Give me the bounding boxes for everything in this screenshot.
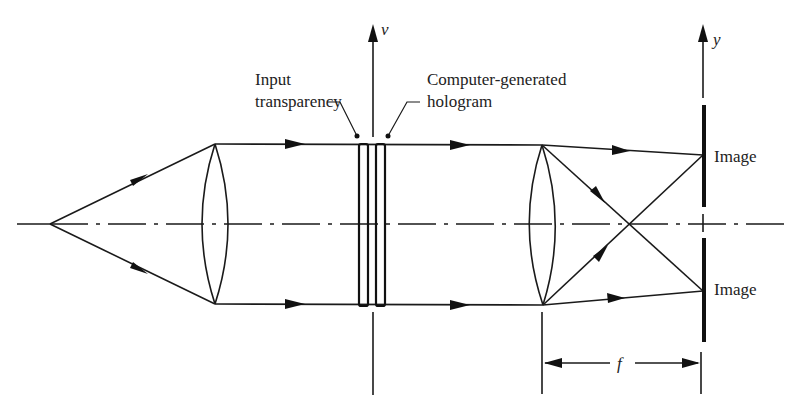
image-label-bottom: Image <box>714 280 756 299</box>
input-transparency-plate <box>359 144 368 306</box>
v-axis-label: v <box>381 20 389 39</box>
output-rays <box>542 145 703 305</box>
transform-lens <box>529 145 555 305</box>
arrow-icon <box>450 140 470 150</box>
arrow-right-icon <box>682 358 700 368</box>
arrow-up-icon <box>368 24 378 42</box>
arrow-icon <box>590 186 605 203</box>
hologram-plate <box>376 144 385 306</box>
y-axis <box>698 24 708 342</box>
optical-diagram: v Input transparency Computer-generated … <box>0 0 797 413</box>
hologram-label-line1: Computer-generated <box>427 70 567 89</box>
arrow-icon <box>593 245 608 262</box>
arrow-up-icon <box>698 24 708 42</box>
arrow-icon <box>607 293 625 303</box>
arrow-icon <box>130 262 148 274</box>
arrow-icon <box>285 299 305 309</box>
hologram-leader <box>386 102 421 139</box>
hologram-label-line2: hologram <box>427 92 492 111</box>
focal-length-label: f <box>617 354 624 373</box>
focal-length-dimension <box>542 312 701 394</box>
y-axis-label: y <box>711 30 721 49</box>
arrow-icon <box>285 139 305 149</box>
arrow-icon <box>450 300 470 310</box>
arrow-icon <box>130 174 148 186</box>
input-transparency-label-line1: Input <box>255 70 291 89</box>
arrow-left-icon <box>544 358 562 368</box>
image-label-top: Image <box>714 147 756 166</box>
input-transparency-label-line2: transparency <box>255 92 342 111</box>
